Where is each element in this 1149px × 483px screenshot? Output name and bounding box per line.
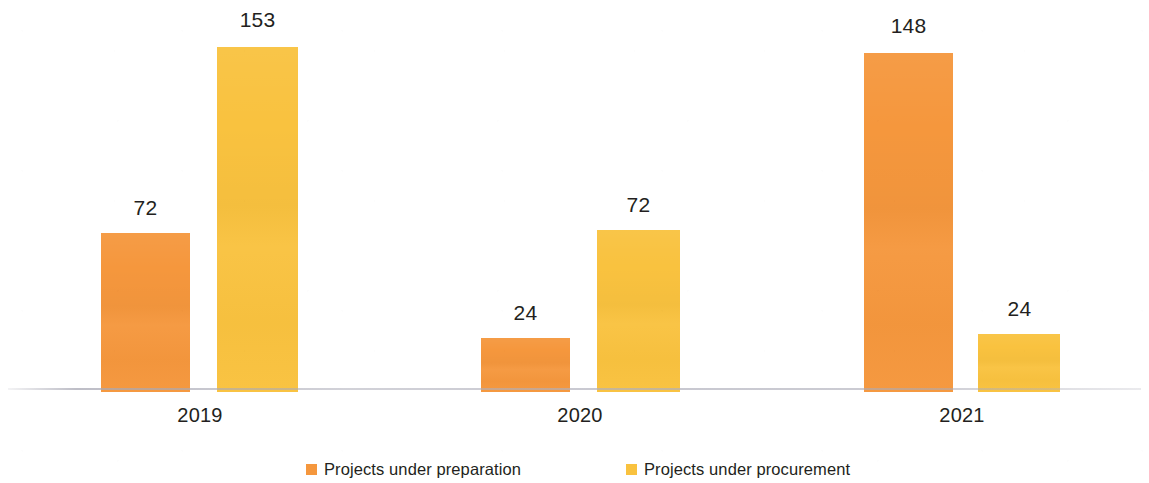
- plot-area: 72 153 24 72 148 24: [0, 0, 1149, 392]
- bar-chart: 72 153 24 72 148 24 2019 2020 2021 Proje…: [0, 0, 1149, 483]
- bar-2020-preparation[interactable]: [481, 338, 570, 392]
- legend-swatch-procurement-icon: [626, 464, 637, 475]
- bar-value-2020-preparation: 24: [481, 301, 570, 325]
- bar-2021-procurement[interactable]: [978, 334, 1060, 392]
- legend-label-preparation: Projects under preparation: [324, 461, 521, 478]
- bar-2021-preparation[interactable]: [864, 53, 953, 392]
- legend-item-preparation[interactable]: Projects under preparation: [306, 461, 521, 478]
- legend-label-procurement: Projects under procurement: [644, 461, 850, 478]
- bar-2019-preparation[interactable]: [101, 233, 190, 392]
- x-axis-line: [8, 388, 1141, 390]
- bar-2019-procurement[interactable]: [217, 47, 298, 392]
- bar-value-2020-procurement: 72: [594, 193, 683, 217]
- legend-item-procurement[interactable]: Projects under procurement: [626, 461, 850, 478]
- x-axis-label-2020: 2020: [535, 404, 625, 427]
- x-axis-label-2019: 2019: [155, 404, 245, 427]
- bar-value-2019-preparation: 72: [101, 196, 190, 220]
- bar-value-2019-procurement: 153: [213, 8, 302, 32]
- bar-2020-procurement[interactable]: [597, 230, 680, 392]
- bar-value-2021-preparation: 148: [864, 14, 953, 38]
- bar-value-2021-procurement: 24: [975, 297, 1064, 321]
- x-axis-label-2021: 2021: [917, 404, 1007, 427]
- chart-legend: Projects under preparation Projects unde…: [0, 458, 1149, 480]
- legend-swatch-preparation-icon: [306, 464, 317, 475]
